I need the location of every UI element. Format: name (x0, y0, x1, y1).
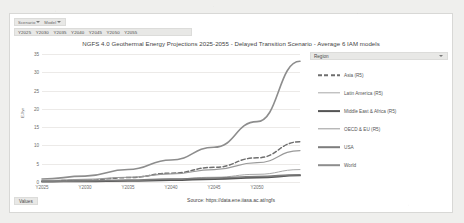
model-label: Model (44, 19, 56, 24)
year-chip-2040[interactable]: Y2040 (71, 30, 84, 35)
legend-item[interactable]: World (310, 156, 448, 174)
y-tick-label: 15 (34, 125, 39, 130)
legend-swatch (318, 127, 340, 131)
legend-item[interactable]: Latin America (R5) (310, 84, 448, 102)
legend-items: Asia (R5)Latin America (R5)Middle East &… (310, 66, 448, 174)
legend-label: Latin America (R5) (344, 91, 383, 96)
year-chip-2035[interactable]: Y2035 (53, 30, 66, 35)
year-chip-2050[interactable]: Y2050 (107, 30, 120, 35)
y-axis-label: EJ/yr (20, 108, 25, 118)
chart-title: NGFS 4.0 Geothermal Energy Projections 2… (10, 40, 452, 47)
legend-item[interactable]: Middle East & Africa (R5) (310, 102, 448, 120)
filter-icon[interactable] (439, 54, 444, 59)
x-tick-label: Y2040 (164, 185, 177, 190)
year-filter-bar[interactable]: Y2025 Y2030 Y2035 Y2040 Y2045 Y2050 Y205… (14, 28, 192, 36)
y-tick-label: 5 (36, 161, 39, 166)
legend: Region Asia (R5)Latin America (R5)Middle… (310, 52, 448, 174)
x-tick-label: Y2050 (250, 185, 263, 190)
y-tick-label: 20 (34, 106, 39, 111)
legend-swatch (318, 73, 340, 77)
series-line (42, 142, 300, 181)
legend-item[interactable]: OECD & EU (R5) (310, 120, 448, 138)
legend-label: Middle East & Africa (R5) (344, 109, 396, 114)
source-caption: Source: https://data.ene.iiasa.ac.at/ngf… (10, 197, 452, 203)
legend-title: Region (314, 54, 329, 59)
year-chip-2025[interactable]: Y2025 (18, 30, 31, 35)
y-tick-label: 35 (34, 52, 39, 57)
scenario-filter[interactable]: Scenario (18, 20, 41, 25)
x-tick-label: Y2025 (35, 185, 48, 190)
legend-header[interactable]: Region (310, 52, 448, 60)
legend-label: USA (344, 145, 354, 150)
series-line (42, 61, 300, 179)
y-tick-label: 30 (34, 70, 39, 75)
y-tick-label: 25 (34, 88, 39, 93)
scenario-label: Scenario (18, 19, 35, 24)
plot-area: 35302520151050 Y2025Y2030Y2035Y2040Y2045… (42, 54, 300, 182)
year-chip-2030[interactable]: Y2030 (36, 30, 49, 35)
chart-panel: Scenario Model Y2025 Y2030 Y2035 Y2040 Y… (9, 13, 453, 213)
legend-label: OECD & EU (R5) (344, 127, 380, 132)
filter-icon[interactable] (57, 20, 62, 25)
legend-item[interactable]: Asia (R5) (310, 66, 448, 84)
x-tick-label: Y2045 (207, 185, 220, 190)
legend-label: World (344, 163, 356, 168)
y-tick-label: 10 (34, 143, 39, 148)
legend-swatch (318, 145, 340, 149)
x-tick-label: Y2035 (121, 185, 134, 190)
model-filter[interactable]: Model (44, 20, 62, 25)
scenario-filter-bar[interactable]: Scenario Model (14, 18, 66, 26)
year-chip-2045[interactable]: Y2045 (89, 30, 102, 35)
legend-label: Asia (R5) (344, 73, 364, 78)
legend-swatch (318, 91, 340, 95)
legend-swatch (318, 163, 340, 167)
x-tick-label: Y2030 (78, 185, 91, 190)
y-tick-label: 0 (36, 180, 39, 185)
year-chip-2055[interactable]: Y2055 (124, 30, 137, 35)
legend-swatch (318, 109, 340, 113)
filter-icon[interactable] (36, 20, 41, 25)
series-lines (42, 54, 300, 182)
legend-item[interactable]: USA (310, 138, 448, 156)
